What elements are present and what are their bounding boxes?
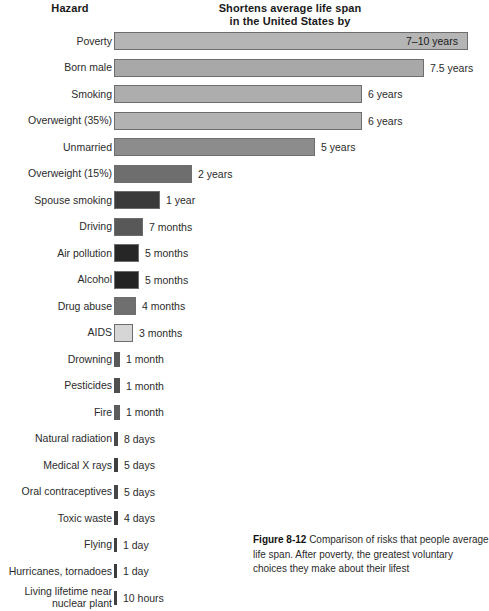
bar-track: 1 month: [114, 373, 476, 400]
figure-number: Figure 8-12: [253, 534, 306, 545]
bar-chart-row: Poverty7–10 years: [0, 28, 476, 55]
bar-chart-row: Unmarried5 years: [0, 134, 476, 161]
bar: [114, 511, 118, 525]
bar-track: 5 days: [114, 479, 476, 506]
bar: [114, 538, 117, 552]
hazard-column-header: Hazard: [0, 2, 140, 14]
bar-row-label: Pesticides: [0, 380, 112, 392]
bar-row-label: Fire: [0, 407, 112, 419]
bar-row-label: Spouse smoking: [0, 195, 112, 207]
bar-value-label: 5 days: [124, 486, 155, 498]
bar-value-label: 1 month: [126, 380, 164, 392]
bar-value-label: 5 years: [321, 141, 355, 153]
bar: [114, 271, 139, 289]
bar-value-label: 7 months: [149, 221, 192, 233]
bar-track: 5 years: [114, 134, 476, 161]
bar-value-label: 1 month: [126, 353, 164, 365]
bar-track: 7–10 years: [114, 28, 476, 55]
bar-chart-row: Overweight (35%)6 years: [0, 108, 476, 135]
bar-value-label: 1 day: [123, 539, 149, 551]
bar-chart-row: AIDS3 months: [0, 320, 476, 347]
bar-chart-row: Living lifetime near nuclear plant10 hou…: [0, 585, 476, 611]
bar-row-label: Alcohol: [0, 274, 112, 286]
bar-chart-row: Drowning1 month: [0, 346, 476, 373]
bar-track: 4 days: [114, 505, 476, 532]
bar: [114, 59, 424, 77]
bar-track: 1 month: [114, 346, 476, 373]
bar-track: 4 months: [114, 293, 476, 320]
bar-chart-row: Pesticides1 month: [0, 373, 476, 400]
bar-track: 7.5 years: [114, 55, 476, 82]
bar-track: 6 years: [114, 108, 476, 135]
bar-row-label: AIDS: [0, 327, 112, 339]
bar: [114, 591, 117, 605]
bar: [114, 138, 315, 156]
bar-chart-rows: Poverty7–10 yearsBorn male7.5 yearsSmoki…: [0, 28, 476, 611]
bar-row-label: Poverty: [0, 36, 112, 48]
value-column-header-line2: in the United States by: [140, 15, 440, 28]
bar: [114, 112, 362, 130]
bar-value-label: 5 months: [145, 274, 188, 286]
bar-row-label: Toxic waste: [0, 513, 112, 525]
bar-row-label: Air pollution: [0, 248, 112, 260]
bar-row-label: Living lifetime near nuclear plant: [0, 586, 112, 609]
chart-header: Hazard Shortens average life span in the…: [0, 0, 476, 28]
bar-value-label: 6 years: [368, 88, 402, 100]
bar-chart-row: Fire1 month: [0, 399, 476, 426]
bar-row-label: Oral contraceptives: [0, 486, 112, 498]
bar-value-label: 5 days: [124, 459, 155, 471]
bar: [114, 352, 120, 367]
bar-row-label: Natural radiation: [0, 433, 112, 445]
bar: [114, 564, 117, 578]
bar-value-label: 5 months: [145, 247, 188, 259]
bar-value-label: 10 hours: [123, 592, 164, 604]
bar-chart-row: Overweight (15%)2 years: [0, 161, 476, 188]
bar: [114, 324, 133, 342]
bar-row-label: Hurricanes, tornadoes: [0, 566, 112, 578]
bar-row-label: Driving: [0, 221, 112, 233]
bar-track: 1 month: [114, 399, 476, 426]
bar-chart-row: Oral contraceptives5 days: [0, 479, 476, 506]
bar-value-label: 6 years: [368, 115, 402, 127]
bar: [114, 432, 118, 446]
bar-row-label: Flying: [0, 539, 112, 551]
bar-chart-row: Alcohol5 months: [0, 267, 476, 294]
bar: [114, 485, 118, 499]
bar-value-label: 2 years: [198, 168, 232, 180]
figure-caption: Figure 8-12 Comparison of risks that peo…: [253, 533, 489, 581]
bar-track: 1 year: [114, 187, 476, 214]
bar-track: 5 months: [114, 267, 476, 294]
bar-value-label: 1 year: [166, 194, 195, 206]
bar-track: 3 months: [114, 320, 476, 347]
bar-track: 5 days: [114, 452, 476, 479]
value-column-header-line1: Shortens average life span: [219, 2, 362, 14]
value-column-header: Shortens average life span in the United…: [140, 2, 440, 27]
bar-chart-row: Drug abuse4 months: [0, 293, 476, 320]
bar-track: 5 months: [114, 240, 476, 267]
bar-chart-row: Toxic waste4 days: [0, 505, 476, 532]
bar-value-label: 1 month: [126, 406, 164, 418]
bar: [114, 165, 192, 183]
bar: [114, 297, 136, 315]
bar-row-label: Unmarried: [0, 142, 112, 154]
bar-chart-row: Born male7.5 years: [0, 55, 476, 82]
bar-track: 8 days: [114, 426, 476, 453]
bar-value-label: 7.5 years: [430, 62, 473, 74]
bar-track: 10 hours: [114, 585, 476, 611]
bar-value-label: 4 days: [124, 512, 155, 524]
bar-row-label: Born male: [0, 62, 112, 74]
bar-chart-row: Driving7 months: [0, 214, 476, 241]
bar-value-label: 3 months: [139, 327, 182, 339]
bar-chart-row: Spouse smoking1 year: [0, 187, 476, 214]
bar: [114, 218, 143, 236]
bar-track: 6 years: [114, 81, 476, 108]
bar-row-label: Smoking: [0, 89, 112, 101]
bar: [114, 405, 120, 420]
bar-value-label: 7–10 years: [406, 35, 458, 47]
bar-row-label: Drug abuse: [0, 301, 112, 313]
bar-chart-row: Smoking6 years: [0, 81, 476, 108]
bar-row-label: Drowning: [0, 354, 112, 366]
bar-chart-row: Natural radiation8 days: [0, 426, 476, 453]
bar-value-label: 4 months: [142, 300, 185, 312]
bar: [114, 458, 118, 472]
